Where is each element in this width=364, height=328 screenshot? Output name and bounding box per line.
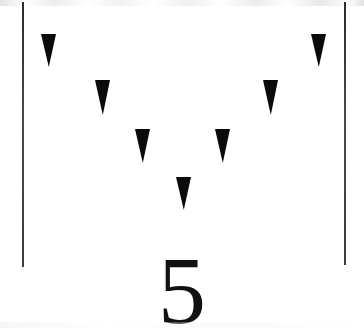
frame-rule-right <box>344 2 346 265</box>
triangle-2 <box>95 80 110 115</box>
stimulus-card: 5 <box>0 0 364 328</box>
frame-rule-left <box>22 2 24 267</box>
triangle-4 <box>176 177 191 210</box>
scan-artifact-top <box>0 0 364 6</box>
triangle-7 <box>311 34 326 67</box>
card-number-label: 5 <box>0 243 364 328</box>
triangle-1 <box>41 34 56 67</box>
triangle-6 <box>263 80 278 115</box>
triangle-3 <box>135 129 150 163</box>
triangle-5 <box>215 129 230 163</box>
